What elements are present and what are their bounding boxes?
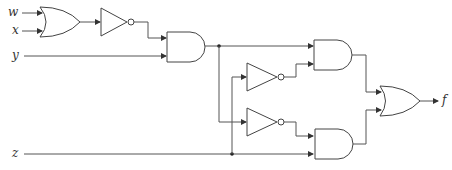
and-gate-2 — [314, 40, 352, 70]
not-gate-2 — [247, 63, 284, 91]
wire-z-to-not2 — [232, 77, 246, 154]
input-label-w: w — [8, 6, 18, 18]
input-label-x: x — [12, 24, 19, 36]
wire-not2-and2 — [284, 64, 313, 77]
input-label-z: z — [12, 147, 18, 159]
wire-and3-or2 — [353, 110, 381, 144]
logic-circuit-diagram: w x y z f — [0, 0, 452, 170]
wire-not3-and3 — [284, 122, 313, 136]
output-label-f: f — [442, 94, 446, 106]
not-gate-3 — [247, 108, 284, 136]
circuit-svg — [0, 0, 452, 170]
or-gate-1 — [40, 7, 80, 37]
input-label-y: y — [12, 49, 19, 61]
wire-and2-or2 — [352, 55, 381, 92]
and-gate-1 — [167, 32, 205, 62]
wire-not1-and1 — [134, 22, 166, 38]
not-gate-1 — [101, 8, 134, 36]
or-gate-2 — [380, 86, 420, 116]
and-gate-3 — [315, 129, 353, 159]
